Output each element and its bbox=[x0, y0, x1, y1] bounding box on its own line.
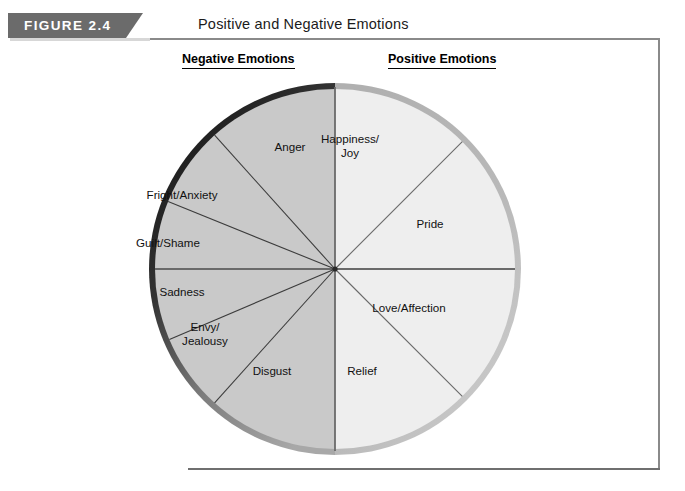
emotion-wheel-svg bbox=[144, 78, 526, 460]
figure-number-label: FIGURE 2.4 bbox=[24, 18, 112, 33]
figure-banner-arrow-icon bbox=[126, 13, 143, 38]
negative-emotions-heading: Negative Emotions bbox=[182, 52, 295, 69]
figure-bottom-rule bbox=[188, 468, 660, 470]
wheel-center-hub bbox=[332, 266, 337, 271]
figure-title: Positive and Negative Emotions bbox=[198, 16, 409, 32]
positive-emotions-heading: Positive Emotions bbox=[388, 52, 496, 69]
figure-number-banner: FIGURE 2.4 bbox=[8, 13, 143, 38]
emotion-wheel bbox=[144, 78, 526, 460]
figure-number-banner-body: FIGURE 2.4 bbox=[8, 13, 126, 38]
figure-banner-shadow bbox=[10, 38, 150, 41]
figure-frame-top-rule bbox=[146, 38, 660, 40]
figure-frame-right-rule bbox=[658, 38, 660, 470]
